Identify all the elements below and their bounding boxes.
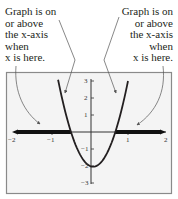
x-tick-label: 1 — [126, 136, 130, 144]
x-tick-label: −2 — [8, 136, 16, 144]
annotation-line: x is here. — [122, 52, 173, 64]
y-tick-label: 1 — [84, 111, 88, 119]
annotation-left: Graph is on or above the x-axis when x i… — [5, 6, 56, 64]
y-tick-label: −3 — [81, 179, 89, 187]
annotation-line: Graph is on — [5, 6, 56, 18]
x-tick-label: 2 — [164, 136, 168, 144]
annotation-right: Graph is on or above the x-axis when x i… — [122, 6, 173, 64]
y-tick-label: −2 — [81, 162, 89, 170]
x-tick-label: −1 — [47, 136, 55, 144]
y-tick-label: 3 — [84, 77, 88, 85]
y-tick-label: −1 — [81, 145, 89, 153]
y-tick-label: 2 — [84, 94, 88, 102]
annotation-line: the x-axis — [122, 29, 173, 41]
annotation-line: the x-axis — [5, 29, 56, 41]
annotation-line: Graph is on — [122, 6, 173, 18]
annotation-line: x is here. — [5, 52, 56, 64]
